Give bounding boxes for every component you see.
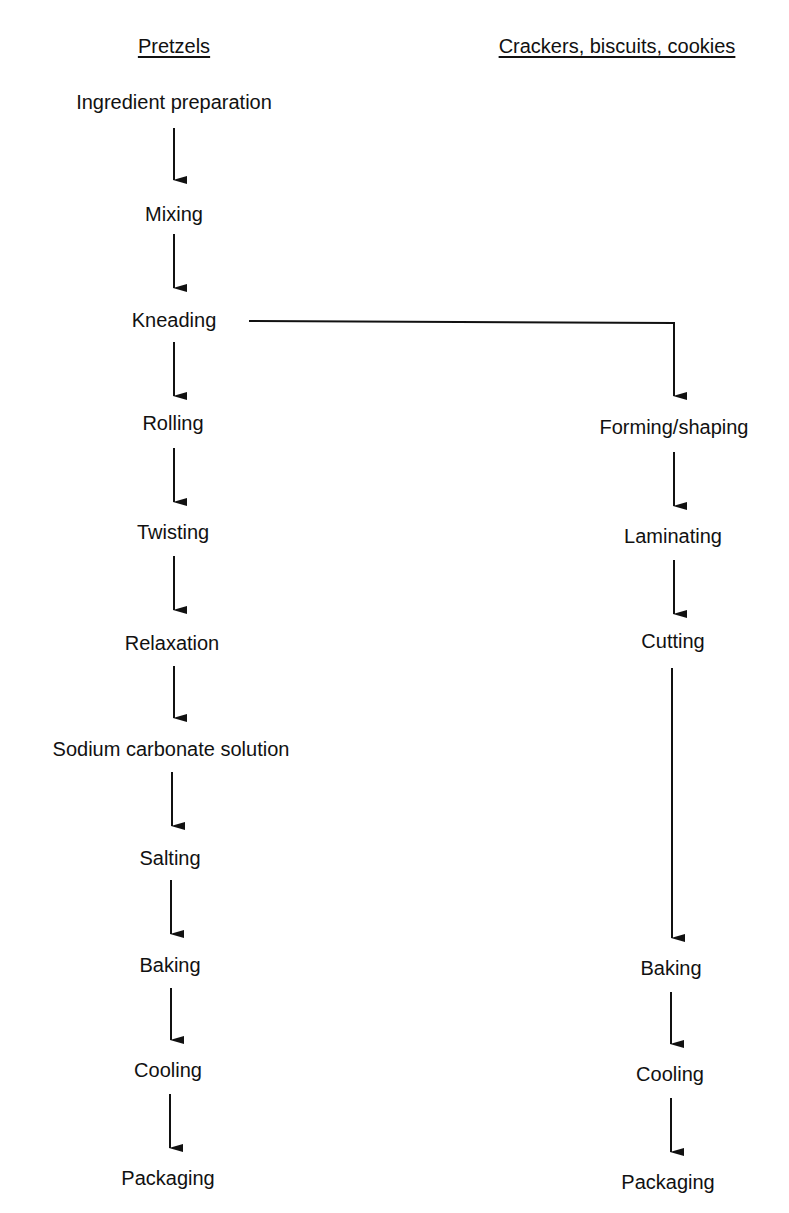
step-sodium-carbonate-solution: Sodium carbonate solution [53,737,290,761]
column-header-crackers: Crackers, biscuits, cookies [499,34,736,58]
step-packaging: Packaging [121,1166,214,1190]
step-rolling: Rolling [142,411,203,435]
step-forming-shaping: Forming/shaping [600,415,749,439]
step-cooling-right: Cooling [636,1062,704,1086]
step-baking: Baking [139,953,200,977]
step-baking-right: Baking [640,956,701,980]
step-ingredient-preparation: Ingredient preparation [76,90,272,114]
flow-arrows [0,0,789,1213]
step-twisting: Twisting [137,520,209,544]
step-laminating: Laminating [624,524,722,548]
step-packaging-right: Packaging [621,1170,714,1194]
column-header-pretzels: Pretzels [138,34,210,58]
step-relaxation: Relaxation [125,631,220,655]
arrow-kneading-to-forming [249,321,674,396]
step-kneading: Kneading [132,308,217,332]
step-salting: Salting [139,846,200,870]
step-cutting: Cutting [641,629,704,653]
step-cooling: Cooling [134,1058,202,1082]
step-mixing: Mixing [145,202,203,226]
